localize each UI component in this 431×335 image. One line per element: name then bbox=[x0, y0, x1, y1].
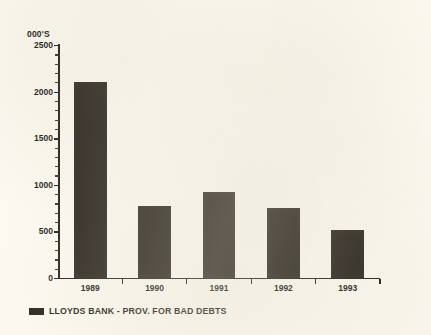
y-axis-minor-tick bbox=[55, 250, 59, 251]
legend-color-swatch bbox=[29, 308, 44, 315]
bar-chart-figure: 000'S 05001000150020002500 LLOYDS BANK -… bbox=[0, 0, 431, 335]
y-axis-minor-tick bbox=[55, 64, 59, 65]
y-axis-minor-tick bbox=[55, 120, 59, 121]
legend-series-label: LLOYDS BANK - PROV. FOR BAD DEBTS bbox=[49, 306, 227, 316]
y-axis-minor-tick bbox=[55, 241, 59, 242]
y-axis-minor-tick bbox=[55, 101, 59, 102]
y-axis-tick-label: 0 bbox=[48, 273, 53, 283]
y-axis-minor-tick bbox=[55, 166, 59, 167]
x-axis-tick bbox=[122, 279, 123, 284]
x-axis-tick-label: 1989 bbox=[81, 283, 100, 293]
y-axis-tick-label: 2500 bbox=[34, 40, 53, 50]
x-axis-tick bbox=[315, 279, 316, 284]
x-axis-tick-label: 1991 bbox=[210, 283, 229, 293]
y-axis-major-tick bbox=[54, 278, 59, 279]
y-axis-major-tick bbox=[54, 45, 59, 46]
y-axis-major-tick bbox=[54, 138, 59, 139]
plot-area bbox=[58, 45, 380, 278]
y-axis-tick-label: 1500 bbox=[34, 133, 53, 143]
y-axis-minor-tick bbox=[55, 82, 59, 83]
y-axis-major-tick bbox=[54, 185, 59, 186]
y-axis-minor-tick bbox=[55, 213, 59, 214]
x-axis-tick bbox=[251, 279, 252, 284]
y-axis-minor-tick bbox=[55, 157, 59, 158]
chart-legend: LLOYDS BANK - PROV. FOR BAD DEBTS bbox=[29, 306, 227, 316]
y-axis-minor-tick bbox=[55, 129, 59, 130]
x-axis-tick bbox=[379, 279, 380, 284]
bar-1990 bbox=[138, 206, 171, 278]
x-axis-tick-label: 1992 bbox=[274, 283, 293, 293]
y-axis-minor-tick bbox=[55, 203, 59, 204]
y-axis-minor-tick bbox=[55, 110, 59, 111]
y-axis-minor-tick bbox=[55, 148, 59, 149]
y-axis-minor-tick bbox=[55, 222, 59, 223]
y-axis-minor-tick bbox=[55, 73, 59, 74]
y-axis-major-tick bbox=[54, 231, 59, 232]
y-axis-minor-tick bbox=[55, 259, 59, 260]
y-axis-minor-tick bbox=[55, 194, 59, 195]
bar-1989 bbox=[74, 82, 107, 278]
y-axis-tick-labels: 05001000150020002500 bbox=[0, 0, 53, 335]
y-axis-tick-label: 500 bbox=[39, 226, 53, 236]
y-axis-minor-tick bbox=[55, 175, 59, 176]
y-axis-minor-tick bbox=[55, 269, 59, 270]
bar-1992 bbox=[267, 208, 300, 278]
y-axis-major-tick bbox=[54, 92, 59, 93]
bar-1991 bbox=[203, 192, 236, 278]
x-axis-tick bbox=[186, 279, 187, 284]
y-axis-tick-label: 1000 bbox=[34, 180, 53, 190]
y-axis-minor-tick bbox=[55, 54, 59, 55]
x-axis-tick-label: 1990 bbox=[145, 283, 164, 293]
bar-1993 bbox=[331, 230, 364, 278]
y-axis-tick-label: 2000 bbox=[34, 87, 53, 97]
x-axis-tick-label: 1993 bbox=[338, 283, 357, 293]
